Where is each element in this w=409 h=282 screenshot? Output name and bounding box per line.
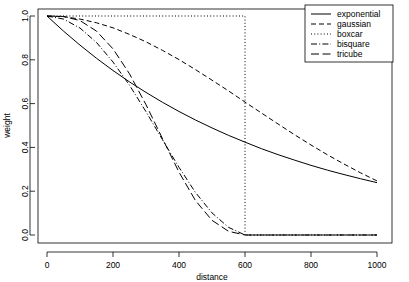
kernel-weight-chart: 0.00.20.40.60.81.0 02004006008001000 dis…: [0, 0, 409, 282]
y-tick-label: 1.0: [20, 10, 30, 22]
x-tick-label: 0: [45, 260, 50, 270]
x-axis-title: distance: [196, 272, 228, 282]
y-tick-label: 0.4: [20, 141, 30, 153]
x-tick-label: 1000: [368, 260, 387, 270]
x-tick-label: 400: [172, 260, 186, 270]
x-axis-ticks: 02004006008001000: [45, 252, 387, 270]
y-axis-title: weight: [2, 113, 12, 139]
legend-label-bisquare: bisquare: [337, 39, 370, 49]
y-tick-label: 0.0: [20, 229, 30, 241]
y-tick-label: 0.8: [20, 54, 30, 66]
x-tick-label: 800: [304, 260, 318, 270]
legend-label-gaussian: gaussian: [337, 19, 371, 29]
y-tick-label: 0.6: [20, 97, 30, 109]
x-tick-label: 200: [106, 260, 120, 270]
plot-canvas: 0.00.20.40.60.81.0 02004006008001000 dis…: [0, 0, 409, 282]
x-tick-label: 600: [238, 260, 252, 270]
legend-label-tricube: tricube: [337, 49, 363, 59]
legend: exponentialgaussianboxcarbisquaretricube: [305, 5, 393, 62]
legend-label-boxcar: boxcar: [337, 29, 363, 39]
y-tick-label: 0.2: [20, 185, 30, 197]
legend-label-exponential: exponential: [337, 9, 381, 19]
y-axis-ticks: 0.00.20.40.60.81.0: [20, 10, 35, 241]
